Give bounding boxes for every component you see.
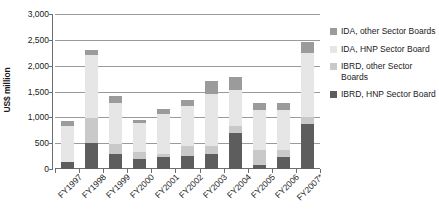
legend-swatch-ibrd-other [330, 63, 337, 70]
bar-segment[interactable] [109, 96, 122, 104]
y-axis-tick-mark [49, 92, 53, 93]
legend-item[interactable]: IBRD, HNP Sector Board [330, 89, 438, 100]
bar-segment[interactable] [229, 90, 242, 126]
bar-segment[interactable] [205, 94, 218, 146]
bar-segment[interactable] [277, 110, 290, 151]
legend-swatch-ibrd-hnp [330, 91, 337, 98]
bar-segment[interactable] [229, 77, 242, 90]
legend-swatch-ida-other [330, 28, 337, 35]
bar-segment[interactable] [109, 144, 122, 153]
bar-segment[interactable] [181, 146, 194, 156]
legend-item[interactable]: IDA, HNP Sector Board [330, 44, 438, 55]
y-axis-tick-label: 2,000 [28, 61, 49, 71]
bars-layer [55, 14, 320, 169]
y-axis-tick-mark [49, 40, 53, 41]
y-axis-tick-labels: 05001,0001,5002,0002,5003,000 [14, 14, 52, 169]
bar-group[interactable] [61, 121, 74, 169]
bar-group[interactable] [109, 96, 122, 169]
bar-segment[interactable] [61, 126, 74, 162]
legend-item-label: IBRD, other Sector Boards [341, 61, 438, 82]
y-axis-tick-mark [49, 143, 53, 144]
bar-segment[interactable] [85, 55, 98, 119]
bar-segment[interactable] [61, 162, 74, 169]
bar-segment[interactable] [85, 118, 98, 143]
bar-segment[interactable] [301, 53, 314, 117]
y-axis-tick-label: 1,500 [28, 87, 49, 97]
bar-group[interactable] [181, 100, 194, 169]
bar-segment[interactable] [133, 123, 146, 152]
bar-segment[interactable] [157, 157, 170, 169]
y-axis-tick-mark [49, 66, 53, 67]
bar-group[interactable] [277, 103, 290, 169]
bar-group[interactable] [229, 77, 242, 169]
y-axis-tick-label: 500 [35, 138, 49, 148]
y-axis-tick-label: 3,000 [28, 9, 49, 19]
chart-legend: IDA, other Sector BoardsIDA, HNP Sector … [330, 26, 438, 107]
legend-item-label: IDA, HNP Sector Board [341, 44, 430, 55]
stacked-bar-chart: US$ million 05001,0001,5002,0002,5003,00… [0, 0, 439, 224]
bar-segment[interactable] [109, 103, 122, 144]
legend-item-label: IBRD, HNP Sector Board [341, 89, 436, 100]
x-axis-tick-label: FY2000 [128, 172, 156, 200]
bar-segment[interactable] [229, 133, 242, 169]
x-axis-tick-label: FY1997 [56, 172, 84, 200]
bar-group[interactable] [85, 50, 98, 169]
bar-segment[interactable] [181, 156, 194, 169]
bar-segment[interactable] [301, 42, 314, 53]
x-axis-tick-label: FY2001 [152, 172, 180, 200]
x-axis-tick-label: FY2005 [249, 172, 277, 200]
bar-segment[interactable] [301, 117, 314, 124]
bar-group[interactable] [133, 120, 146, 169]
bar-segment[interactable] [181, 106, 194, 146]
legend-item-label: IDA, other Sector Boards [341, 26, 436, 37]
bar-segment[interactable] [205, 81, 218, 93]
y-axis-tick-label: 1,000 [28, 112, 49, 122]
bar-segment[interactable] [133, 152, 146, 159]
bar-segment[interactable] [157, 114, 170, 153]
bar-segment[interactable] [253, 110, 266, 150]
y-axis-tick-mark [49, 117, 53, 118]
bar-segment[interactable] [109, 154, 122, 170]
bar-group[interactable] [205, 81, 218, 169]
bar-segment[interactable] [277, 150, 290, 157]
bar-segment[interactable] [229, 126, 242, 133]
x-axis-tick-labels: FY1997FY1998FY1999FY2000FY2001FY2002FY20… [55, 172, 340, 224]
bar-segment[interactable] [85, 143, 98, 169]
plot-area [55, 14, 320, 169]
bar-group[interactable] [301, 42, 314, 169]
y-axis-tick-mark [49, 169, 53, 170]
bar-segment[interactable] [205, 154, 218, 170]
y-axis-tick-mark [49, 14, 53, 15]
legend-item[interactable]: IBRD, other Sector Boards [330, 61, 438, 82]
x-axis-tick-label: FY2002 [177, 172, 205, 200]
bar-segment[interactable] [253, 150, 266, 166]
y-axis-title-label: US$ million [2, 67, 12, 112]
bar-segment[interactable] [301, 124, 314, 169]
legend-swatch-ida-hnp [330, 46, 337, 53]
y-axis-tick-label: 2,500 [28, 35, 49, 45]
bar-group[interactable] [253, 103, 266, 169]
x-axis-tick-label: FY1998 [80, 172, 108, 200]
y-axis-title: US$ million [0, 0, 14, 180]
bar-group[interactable] [157, 109, 170, 169]
legend-item[interactable]: IDA, other Sector Boards [330, 26, 438, 37]
bar-segment[interactable] [133, 159, 146, 169]
bar-segment[interactable] [277, 157, 290, 169]
x-axis-tick-label: FY2004 [225, 172, 253, 200]
bar-segment[interactable] [205, 146, 218, 154]
x-axis-tick-label: FY1999 [104, 172, 132, 200]
x-axis-tick-label: FY2003 [201, 172, 229, 200]
